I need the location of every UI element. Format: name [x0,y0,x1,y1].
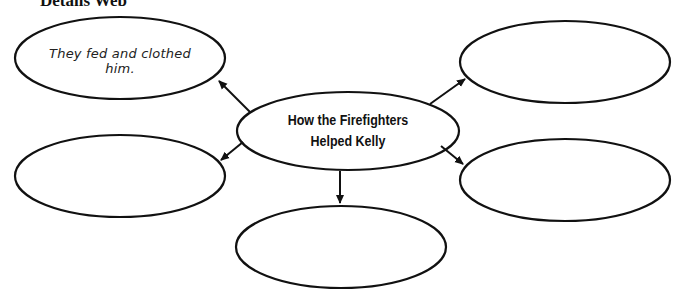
detail-text-top-left[interactable]: They fed and clothed him. [35,46,205,76]
detail-oval-bottom[interactable] [236,206,446,288]
center-label-line1: How the Firefighters [274,110,422,131]
center-label: How the Firefighters Helped Kelly [274,110,422,152]
arrow-to-top-left [219,81,250,112]
arrow-to-middle-right [441,146,463,164]
arrow-to-top-right [430,79,465,104]
center-label-line2: Helped Kelly [274,131,422,152]
arrow-to-middle-left [221,142,243,160]
detail-oval-middle-right[interactable] [460,139,670,221]
detail-oval-middle-left[interactable] [15,135,225,217]
detail-oval-top-right[interactable] [460,21,670,103]
